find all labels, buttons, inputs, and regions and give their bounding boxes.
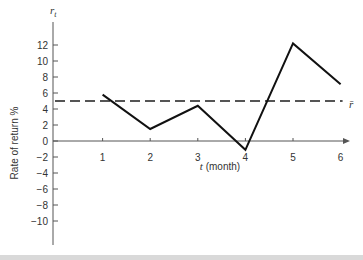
y-tick-label: −4 <box>37 168 49 179</box>
y-tick-label: 2 <box>42 120 48 131</box>
y-tick-label: 4 <box>42 104 48 115</box>
y-tick-label: 10 <box>37 56 49 67</box>
y-tick-label: −2 <box>37 152 49 163</box>
axes <box>53 22 350 245</box>
x-tick-label: 1 <box>100 152 106 163</box>
mean-label: r̄ <box>349 98 354 110</box>
x-tick-label: 5 <box>290 152 296 163</box>
x-tick-label: 2 <box>147 152 153 163</box>
y-tick-label: 8 <box>42 72 48 83</box>
series <box>55 43 343 150</box>
y-tick-label: 6 <box>42 88 48 99</box>
x-tick-label: 4 <box>243 152 249 163</box>
y-ticks: 121086420−2−4−6−8−10 <box>31 40 58 227</box>
x-axis-label: t (month) <box>200 160 240 172</box>
y-axis-label: Rate of return % <box>9 106 20 179</box>
y-tick-label: −8 <box>37 200 49 211</box>
x-axis-arrow-icon <box>343 138 350 144</box>
x-ticks: 123456 <box>100 138 344 163</box>
y-tick-label: −10 <box>31 216 48 227</box>
y-axis-symbol: rt <box>50 4 57 19</box>
y-tick-label: 0 <box>42 136 48 147</box>
bottom-divider <box>0 255 363 260</box>
rate-of-return-chart: 121086420−2−4−6−8−10 123456 rt Rate of r… <box>0 0 363 260</box>
returns-line <box>103 43 341 149</box>
y-tick-label: 12 <box>37 40 49 51</box>
y-tick-label: −6 <box>37 184 49 195</box>
x-tick-label: 6 <box>338 152 344 163</box>
